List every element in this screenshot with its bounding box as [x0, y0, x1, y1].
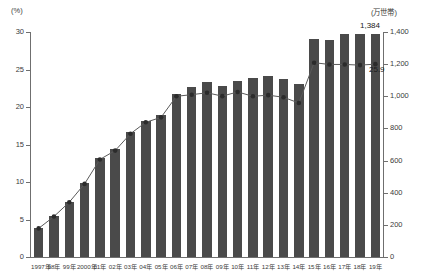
line-marker [189, 92, 194, 97]
left-axis-tick [26, 220, 30, 221]
left-axis-tick [26, 32, 30, 33]
x-axis-tick-label: 17年 [337, 262, 352, 271]
right-axis-tick [384, 96, 388, 97]
x-axis-tick-label: 03年 [123, 262, 138, 271]
x-axis-tick-label: 18年 [352, 262, 367, 271]
x-axis-tick-label: 08年 [199, 262, 214, 271]
line-marker [205, 90, 210, 95]
x-axis-tick-label: 01年 [92, 262, 107, 271]
line-path [39, 63, 376, 229]
line-marker [327, 62, 332, 67]
right-axis-tick [384, 32, 388, 33]
left-axis-tick [26, 182, 30, 183]
right-axis-tick [384, 161, 388, 162]
x-axis-tick-label: 02年 [108, 262, 123, 271]
right-axis-tick-label: 400 [390, 188, 420, 197]
right-axis-tick [384, 225, 388, 226]
right-axis-tick-label: 1,200 [390, 59, 420, 68]
left-axis-tick [26, 70, 30, 71]
x-axis-tick-label: 09年 [215, 262, 230, 271]
line-marker [128, 131, 133, 136]
right-axis-tick [384, 193, 388, 194]
right-axis-unit-label: (万世帯) [371, 6, 397, 17]
x-axis-tick-label: 19年 [368, 262, 383, 271]
left-axis-tick [26, 145, 30, 146]
left-axis-tick-label: 15 [2, 140, 24, 149]
x-axis-tick-label: 10年 [230, 262, 245, 271]
data-label-percentage: 25.9 [369, 65, 385, 74]
line-series [31, 32, 383, 257]
x-axis-tick-label: 99年 [62, 262, 77, 271]
line-marker [358, 63, 363, 68]
line-marker [143, 120, 148, 125]
left-axis-tick-label: 20 [2, 102, 24, 111]
line-marker [159, 115, 164, 120]
left-axis-tick-label: 5 [2, 215, 24, 224]
line-marker [98, 157, 103, 162]
left-axis-tick-label: 10 [2, 177, 24, 186]
line-marker [297, 101, 302, 106]
x-axis-tick-label: 04年 [138, 262, 153, 271]
data-label-household-total: 1,384 [360, 21, 380, 30]
left-axis-tick-label: 0 [2, 252, 24, 261]
chart-container: (%) (万世帯) 051015202530 02004006008001,00… [0, 0, 423, 275]
x-axis-tick-label: 05年 [153, 262, 168, 271]
left-axis-tick [26, 107, 30, 108]
right-axis-tick-label: 200 [390, 220, 420, 229]
left-axis-tick [26, 257, 30, 258]
line-marker [312, 60, 317, 65]
line-marker [342, 62, 347, 67]
x-axis-line [30, 257, 384, 258]
x-axis-tick-label: 07年 [184, 262, 199, 271]
line-marker [52, 214, 57, 219]
right-axis-tick-label: 800 [390, 123, 420, 132]
x-axis-tick-label: 1997年 [31, 262, 46, 271]
line-marker [113, 148, 118, 153]
right-axis-tick-label: 1,000 [390, 91, 420, 100]
x-axis-tick-label: 14年 [291, 262, 306, 271]
line-marker [67, 200, 72, 205]
line-markers [36, 60, 377, 230]
right-axis-tick-label: 1,400 [390, 27, 420, 36]
x-axis-tick-label: 12年 [261, 262, 276, 271]
line-marker [82, 182, 87, 187]
x-axis-tick-label: 13年 [276, 262, 291, 271]
left-axis-tick-label: 25 [2, 65, 24, 74]
x-axis-tick-label: 11年 [245, 262, 260, 271]
line-marker [281, 95, 286, 100]
x-axis-tick-label: 06年 [169, 262, 184, 271]
right-axis-tick [384, 257, 388, 258]
line-marker [174, 94, 179, 99]
line-marker [251, 94, 256, 99]
left-axis-unit-label: (%) [11, 6, 23, 15]
line-marker [235, 90, 240, 95]
right-axis-tick-label: 0 [390, 252, 420, 261]
right-axis-tick [384, 128, 388, 129]
right-axis-tick-label: 600 [390, 156, 420, 165]
line-marker [220, 94, 225, 99]
x-axis-tick-label: 98年 [46, 262, 61, 271]
x-axis-tick-label: 2000年 [77, 262, 92, 271]
x-axis-tick-label: 15年 [306, 262, 321, 271]
line-marker [266, 93, 271, 98]
line-marker [36, 226, 41, 231]
left-axis-tick-label: 30 [2, 27, 24, 36]
x-axis-tick-label: 16年 [322, 262, 337, 271]
